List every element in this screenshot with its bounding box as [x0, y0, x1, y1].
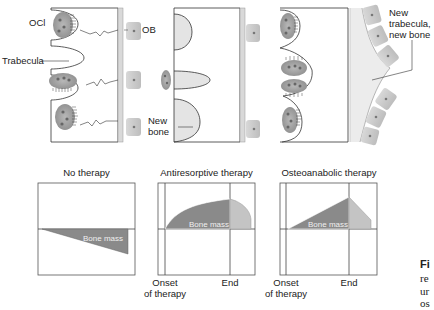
- new-trabecula-label-2: trabecula,: [389, 18, 431, 29]
- osteoblast-cell: [126, 118, 141, 136]
- chart-title-antiresorptive: Antiresorptive therapy: [150, 167, 263, 178]
- new-trabecula-label-1: New: [389, 7, 408, 18]
- osteoblast-cell: [246, 24, 260, 42]
- osteoblast-cell: [161, 70, 171, 90]
- osteoclast-cell: [281, 56, 307, 76]
- osteoblast-cell: [126, 22, 141, 40]
- osteoclast-cell: [49, 73, 77, 92]
- bone-mass-label: Bone mass: [189, 219, 229, 230]
- end-label: End: [334, 277, 364, 288]
- new-trabecula-label-3: new bone: [389, 29, 430, 40]
- onset-label: Onset: [145, 277, 185, 288]
- onset-label: Onset: [266, 277, 306, 288]
- bone-mass-label: Bone mass: [83, 233, 123, 244]
- onset-label-2: of therapy: [140, 288, 190, 299]
- bone-mass-label: Bone mass: [308, 219, 348, 230]
- new-bone-fill: [174, 14, 192, 50]
- osteoclast-cell: [280, 13, 298, 39]
- osteoclast-cell: [281, 79, 307, 97]
- ocl-label: OCl: [29, 17, 45, 28]
- trabecula-label: Trabecula: [2, 55, 44, 66]
- new-bone-label-2: bone: [148, 126, 169, 137]
- osteoblast-cell: [246, 120, 260, 138]
- figure-caption-line: re: [420, 271, 429, 285]
- chart-title-osteoanabolic: Osteoanabolic therapy: [274, 167, 384, 178]
- end-label: End: [215, 277, 245, 288]
- new-bone-label-1: New: [148, 115, 167, 126]
- figure-caption-bold: Fi: [420, 257, 430, 271]
- osteoblast-cell: [126, 71, 141, 89]
- new-bone-fill: [174, 99, 200, 142]
- chart-no-therapy: [38, 183, 135, 275]
- bone-lining-strip: [118, 8, 123, 142]
- new-bone-fill: [174, 71, 210, 89]
- onset-label-2: of therapy: [261, 288, 311, 299]
- osteoclast-cell: [282, 107, 301, 133]
- chart-title-no-therapy: No therapy: [38, 167, 135, 178]
- panel-resorption: [41, 8, 141, 142]
- ob-label: OB: [142, 24, 156, 35]
- bone-lining-strip: [240, 8, 245, 142]
- figure-caption-line: os: [420, 296, 430, 310]
- osteoblast-cell: [374, 87, 397, 111]
